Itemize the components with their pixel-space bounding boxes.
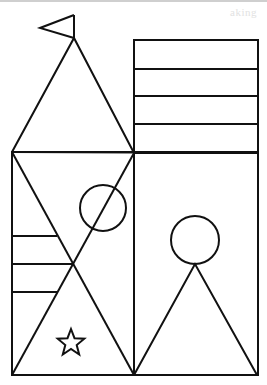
- flag-pennant: [40, 15, 74, 38]
- flag: [40, 15, 74, 39]
- house-line-drawing: [0, 0, 267, 385]
- roof-triangle: [12, 38, 134, 153]
- triangle-right: [134, 264, 257, 375]
- roof-base-line: [12, 152, 258, 153]
- striped-rectangle: [134, 40, 258, 153]
- star-icon: [58, 329, 85, 355]
- circle-right: [171, 216, 219, 264]
